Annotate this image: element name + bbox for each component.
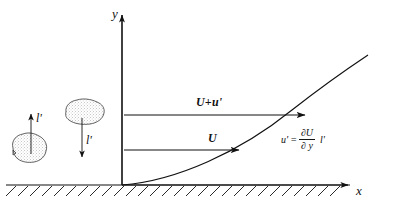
formula-trailing-term: l': [320, 134, 325, 145]
formula-numerator: ∂U: [299, 128, 315, 139]
hatched-wall: [6, 185, 350, 196]
eddy-left-label: l': [36, 112, 42, 124]
turbulence-mixing-length-diagram: y x U+u' U l' l' u' = ∂U ∂ y l': [0, 0, 397, 213]
eddy-right-label: l': [86, 134, 92, 146]
velocity-upper-label: U+u': [196, 96, 222, 108]
velocity-lower-label: U: [208, 132, 217, 144]
fluctuation-formula: u' = ∂U ∂ y l': [281, 128, 325, 151]
formula-equals: =: [290, 134, 297, 145]
velocity-profile-curve: [122, 55, 368, 185]
fluid-eddy-blob-downward: [66, 99, 105, 157]
x-axis-label: x: [356, 184, 362, 197]
formula-lhs: u': [281, 134, 288, 145]
formula-denominator: ∂ y: [299, 141, 315, 152]
formula-fraction: ∂U ∂ y: [299, 128, 315, 151]
y-axis-label: y: [112, 7, 118, 20]
